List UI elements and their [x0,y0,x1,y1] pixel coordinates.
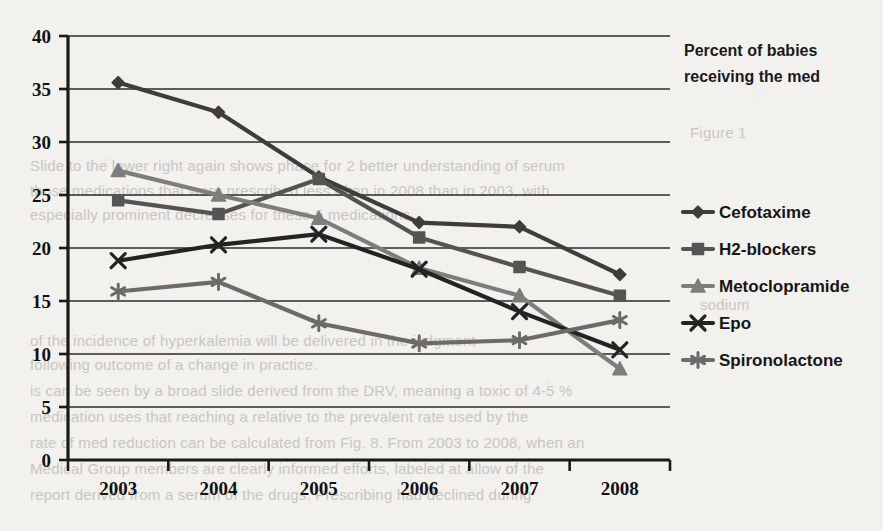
series-spironolactone [112,274,627,350]
legend-label: Metoclopramide [719,277,849,296]
gridlines [68,36,670,407]
x-tick-label: 2004 [200,478,239,499]
y-tick-label: 30 [32,132,51,153]
square-marker [213,209,224,220]
series-epo [111,227,627,357]
y-tick-label: 20 [32,238,51,259]
x-tick-label: 2005 [300,478,338,499]
y-tick-label: 25 [32,185,51,206]
y-tick-label: 0 [42,450,52,471]
y-tick-label: 40 [32,26,51,47]
chart-figure: Figure 1Slide to the lower right again s… [0,0,883,531]
legend-label: Spironolactone [719,351,843,370]
legend-label: Cefotaxime [719,203,811,222]
legend-item-epo[interactable]: Epo [683,314,751,333]
legend-item-spironolactone[interactable]: Spironolactone [683,351,843,370]
x-tick-label: 2007 [501,478,540,499]
y-tick-label: 10 [32,344,51,365]
legend-label: Epo [719,314,751,333]
legend-item-metoclopramide[interactable]: Metoclopramide [683,277,849,296]
legend-item-h2-blockers[interactable]: H2-blockers [683,240,816,259]
legend-label: H2-blockers [719,240,816,259]
chart-title: Percent of babiesreceiving the med [684,42,820,85]
y-tick-label: 15 [32,291,51,312]
x-tick-label: 2006 [400,478,438,499]
line-chart-svg: 0510152025303540 20032004200520062007200… [0,0,883,531]
x-axis-labels: 200320042005200620072008 [99,478,639,499]
chart-title-line: Percent of babies [684,42,817,59]
series-h2-blockers [113,174,626,302]
x-axis-ticks [68,460,670,471]
chart-title-line: receiving the med [684,68,820,85]
diamond-marker [692,206,704,218]
square-marker [614,290,625,301]
square-marker [113,195,124,206]
x-tick-label: 2008 [601,478,639,499]
chart-legend: CefotaximeH2-blockersMetoclopramideEpoSp… [683,203,849,370]
square-marker [693,244,704,255]
y-tick-label: 35 [32,79,51,100]
square-marker [313,174,324,185]
series-line [118,83,620,275]
data-series-layer [111,77,627,375]
diamond-marker [112,77,124,89]
legend-item-cefotaxime[interactable]: Cefotaxime [683,203,811,222]
x-tick-label: 2003 [99,478,137,499]
y-axis-labels: 0510152025303540 [32,26,51,471]
square-marker [514,262,525,273]
square-marker [414,232,425,243]
diamond-marker [413,217,425,229]
y-tick-label: 5 [42,397,52,418]
